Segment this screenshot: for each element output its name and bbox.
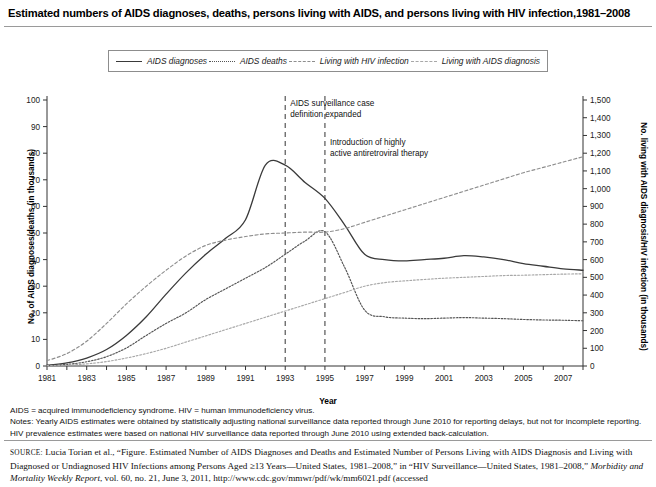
y2-tick-label: 500	[590, 273, 604, 282]
x-tick-label: 1983	[78, 374, 97, 382]
y2-tick-label: 900	[590, 202, 604, 211]
divider-source	[4, 440, 652, 441]
divider-top	[4, 26, 652, 27]
y2-tick-label: 700	[590, 238, 604, 247]
x-tick-label: 1993	[276, 374, 295, 382]
x-tick-label: 2003	[475, 374, 494, 382]
x-tick-label: 1999	[395, 374, 414, 382]
figure-page: Estimated numbers of AIDS diagnoses, dea…	[0, 0, 656, 487]
notes-line-2: Notes: Yearly AIDS estimates were obtain…	[10, 416, 650, 427]
x-tick-label: 1989	[197, 374, 216, 382]
y2-tick-label: 100	[590, 344, 604, 353]
chart-plot-area: 0102030405060708090100010020030040050060…	[0, 82, 656, 382]
source-line-3-post: , vol. 60, no. 21, June 3, 2011, http://…	[100, 473, 428, 483]
y2-tick-label: 300	[590, 309, 604, 318]
figure-source: SOURCE: Lucia Torian et al., “Figure. Es…	[10, 446, 648, 485]
x-tick-label: 2005	[514, 374, 533, 382]
legend-swatch-dashdot-icon	[411, 61, 437, 62]
source-line-3-pre: States, 1981–2008,”	[514, 461, 591, 471]
chart-svg: 0102030405060708090100010020030040050060…	[0, 82, 656, 382]
annotation-text: active antiretroviral therapy	[330, 149, 429, 158]
x-tick-label: 1987	[157, 374, 176, 382]
y-axis-title-left: No. of AIDS diagnoses/deaths (in thousan…	[27, 122, 36, 352]
series-line-living-with-hiv-infection	[47, 157, 583, 361]
notes-line-1: AIDS = acquired immunodeficiency syndrom…	[10, 405, 650, 416]
y2-tick-label: 1,400	[590, 114, 611, 123]
y2-tick-label: 1,300	[590, 131, 611, 140]
x-tick-label: 2001	[435, 374, 454, 382]
x-tick-label: 2007	[554, 374, 573, 382]
series-line-aids-deaths	[47, 231, 583, 366]
source-line-1: Lucia Torian et al., “Figure. Estimated …	[43, 447, 571, 457]
y2-tick-label: 400	[590, 291, 604, 300]
annotation-text: Introduction of highly	[330, 138, 406, 147]
x-tick-label: 1985	[117, 374, 136, 382]
legend-label-living-aids: Living with AIDS diagnosis	[442, 56, 540, 66]
y2-tick-label: 1,000	[590, 185, 611, 194]
legend-item-aids-diagnoses: AIDS diagnoses	[116, 56, 207, 66]
figure-notes: AIDS = acquired immunodeficiency syndrom…	[10, 405, 650, 439]
legend-swatch-dashed-icon	[289, 61, 315, 62]
y2-tick-label: 1,200	[590, 149, 611, 158]
annotation-text: definition expanded	[290, 110, 361, 119]
y2-tick-label: 200	[590, 327, 604, 336]
legend-label-living-hiv: Living with HIV infection	[320, 56, 409, 66]
y2-tick-label: 1,100	[590, 167, 611, 176]
x-tick-label: 1995	[316, 374, 335, 382]
series-line-living-with-aids-diagnosis	[47, 274, 583, 366]
legend-item-living-aids: Living with AIDS diagnosis	[411, 56, 540, 66]
chart-legend: AIDS diagnoses AIDS deaths Living with H…	[108, 50, 548, 72]
legend-swatch-solid-icon	[116, 61, 142, 62]
notes-line-3: HIV prevalence estimates were based on n…	[10, 428, 650, 439]
x-tick-label: 1997	[356, 374, 375, 382]
series-line-aids-diagnoses	[47, 160, 583, 365]
legend-item-aids-deaths: AIDS deaths	[209, 56, 287, 66]
legend-label-aids-deaths: AIDS deaths	[240, 56, 287, 66]
legend-swatch-dotted-icon	[209, 61, 235, 62]
x-tick-label: 1991	[236, 374, 255, 382]
legend-item-living-hiv: Living with HIV infection	[289, 56, 409, 66]
y2-tick-label: 800	[590, 220, 604, 229]
x-tick-label: 1981	[38, 374, 57, 382]
annotation-text: AIDS surveillance case	[290, 99, 375, 108]
y-tick-label: 100	[26, 96, 40, 105]
y-tick-label: 0	[35, 362, 40, 371]
source-keyword: SOURCE:	[10, 448, 43, 457]
y2-tick-label: 600	[590, 256, 604, 265]
y-axis-title-right: No. living with AIDS diagnosis/HIV infec…	[639, 112, 648, 362]
y2-tick-label: 1,500	[590, 96, 611, 105]
legend-label-aids-diagnoses: AIDS diagnoses	[147, 56, 207, 66]
page-title: Estimated numbers of AIDS diagnoses, dea…	[8, 7, 648, 19]
y2-tick-label: 0	[590, 362, 595, 371]
